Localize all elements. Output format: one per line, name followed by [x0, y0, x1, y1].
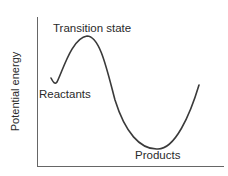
reactants-label: Reactants [39, 89, 91, 101]
y-axis-label: Potential energy [10, 47, 21, 137]
products-label: Products [135, 150, 180, 162]
transition-state-label: Transition state [53, 23, 131, 35]
